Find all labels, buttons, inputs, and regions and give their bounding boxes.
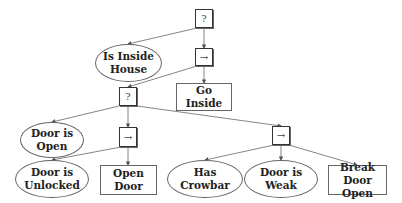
condition-line2: Open (31, 140, 73, 153)
break-door-open-action: Break Door Open (328, 165, 387, 195)
door-fallback-node: ? (119, 87, 137, 106)
door-is-open-condition: Door is Open (20, 122, 84, 158)
fallback-label: ? (125, 90, 130, 103)
edge-fallback-door-to-door-is-open (52, 106, 119, 122)
root-fallback-node: ? (195, 9, 213, 28)
edge-root-to-is-inside-house (128, 28, 197, 44)
action-label: Open Door (101, 167, 156, 193)
open-door-action: Open Door (100, 165, 157, 195)
door-is-weak-condition: Door is Weak (244, 160, 318, 198)
condition-line2: Crowbar (180, 179, 230, 192)
door-is-unlocked-condition: Door is Unlocked (15, 160, 89, 198)
edge-seq-break-to-has-crowbar (205, 145, 274, 160)
condition-line1: Is Inside (103, 50, 154, 63)
action-line2: Door Open (329, 174, 386, 200)
sequence-label: → (277, 129, 285, 142)
condition-line2: Weak (260, 179, 302, 192)
sequence-label: → (200, 51, 208, 64)
action-label: Go Inside (177, 84, 231, 110)
action-line1: Break (329, 161, 386, 174)
condition-line1: Has (180, 166, 230, 179)
go-inside-action: Go Inside (176, 83, 232, 111)
condition-line2: Unlocked (24, 179, 79, 192)
is-inside-house-condition: Is Inside House (95, 44, 162, 82)
unlock-sequence-node: → (119, 127, 137, 147)
break-sequence-node: → (272, 126, 290, 145)
condition-line1: Door is (24, 166, 79, 179)
fallback-label: ? (201, 12, 206, 25)
condition-line1: Door is (260, 166, 302, 179)
sequence-label: → (124, 131, 132, 144)
condition-line1: Door is (31, 127, 73, 140)
condition-line2: House (103, 63, 154, 76)
main-sequence-node: → (195, 48, 213, 66)
has-crowbar-condition: Has Crowbar (167, 160, 243, 198)
